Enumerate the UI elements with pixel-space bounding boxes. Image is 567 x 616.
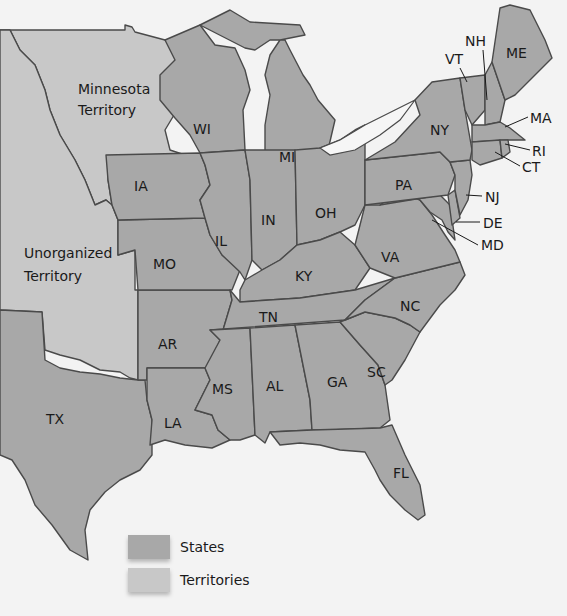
label-il: IL — [215, 233, 227, 249]
label-ny: NY — [430, 122, 449, 138]
label-ms: MS — [212, 381, 233, 397]
legend-swatch-territories — [128, 568, 170, 592]
label-mi: MI — [279, 149, 295, 165]
label-ct: CT — [522, 159, 541, 175]
label-ri: RI — [532, 143, 546, 159]
label-ma: MA — [530, 110, 552, 126]
label-sc: SC — [367, 364, 386, 380]
label-nj: NJ — [485, 189, 500, 205]
label-in: IN — [261, 212, 276, 228]
label-ia: IA — [134, 178, 148, 194]
label-de: DE — [483, 215, 503, 231]
label-al: AL — [266, 378, 284, 394]
label-ar: AR — [158, 336, 178, 352]
label-vt: VT — [445, 51, 464, 67]
label-oh: OH — [315, 205, 337, 221]
label-va: VA — [381, 249, 400, 265]
label-md: MD — [481, 237, 504, 253]
label-tn: TN — [258, 309, 278, 325]
legend-item-states: States — [128, 535, 224, 559]
label-mo: MO — [153, 256, 176, 272]
label-la: LA — [164, 415, 182, 431]
label-fl: FL — [393, 465, 409, 481]
legend-label-states: States — [180, 539, 224, 555]
label-tx: TX — [45, 411, 65, 427]
leader-ma — [505, 117, 528, 127]
legend-label-territories: Territories — [180, 572, 250, 588]
label-me: ME — [506, 45, 527, 61]
label-unorganized-territory-2: Territory — [23, 268, 82, 284]
label-minnesota-territory-2: Territory — [77, 102, 136, 118]
label-ga: GA — [327, 374, 348, 390]
legend-item-territories: Territories — [128, 568, 250, 592]
label-ky: KY — [295, 268, 313, 284]
state-ct[interactable] — [472, 140, 502, 165]
state-ma[interactable] — [472, 122, 525, 142]
label-nc: NC — [400, 298, 420, 314]
label-nh: NH — [465, 33, 486, 49]
label-pa: PA — [395, 177, 413, 193]
label-unorganized-territory-1: Unorganized — [24, 245, 112, 261]
label-wi: WI — [193, 121, 211, 137]
us-map-1850: Minnesota Territory Unorganized Territor… — [0, 0, 567, 616]
state-ia[interactable] — [106, 153, 210, 220]
label-minnesota-territory-1: Minnesota — [78, 81, 150, 97]
legend-swatch-states — [128, 535, 170, 559]
